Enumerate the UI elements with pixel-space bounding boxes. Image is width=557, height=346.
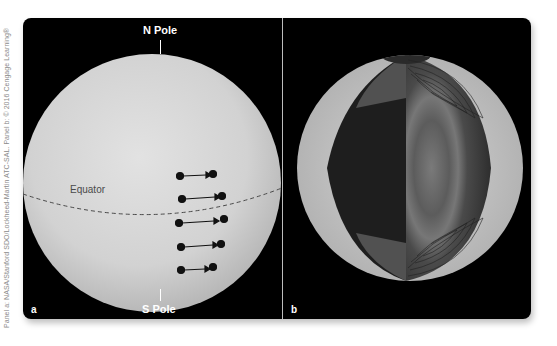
sun-interior-illustration	[23, 18, 531, 319]
figure-frame: N Pole S Pole Equator a	[23, 18, 531, 319]
panel-b-label: b	[291, 304, 297, 315]
image-credit: Panel a: NASA/Stanford SDO/Lockheed-Mart…	[3, 28, 10, 328]
